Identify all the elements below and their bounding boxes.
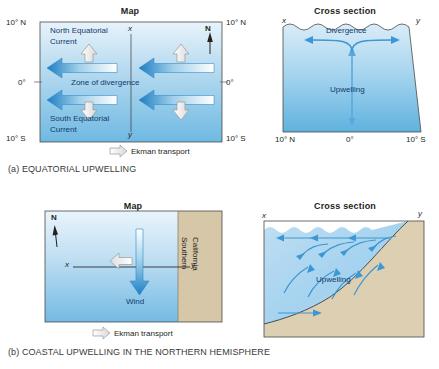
panel-a-cross-section: Cross section x y Divergence Upwelling 1… bbox=[250, 0, 439, 185]
southern-california-label-line1: Southern bbox=[180, 237, 189, 269]
south-equatorial-current-label-line1: South Equatorial bbox=[50, 114, 109, 123]
compass-label-north-b: N bbox=[51, 213, 57, 222]
panel-b-caption: (b) COASTAL UPWELLING IN THE NORTHERN HE… bbox=[8, 347, 270, 357]
north-equatorial-current-label-line1: North Equatorial bbox=[50, 26, 108, 35]
panel-a-upwelling-label: Upwelling bbox=[330, 85, 365, 94]
panel-b-cross-section: Cross section bbox=[250, 185, 439, 369]
south-equatorial-current-label-line2: Current bbox=[50, 125, 77, 134]
ekman-transport-legend-a: Ekman transport bbox=[131, 147, 190, 156]
southern-california-label-line2: California bbox=[191, 237, 200, 271]
panel-a-cross-axis-10s: 10° S bbox=[406, 135, 426, 144]
panel-b-upwelling-label: Upwelling bbox=[316, 275, 351, 284]
ekman-legend-icon bbox=[110, 145, 127, 157]
panel-a-cross-axis-10n: 10° N bbox=[275, 135, 295, 144]
panel-a-cross-axis-0: 0° bbox=[346, 135, 354, 144]
north-equatorial-current-label-line2: Current bbox=[50, 37, 77, 46]
panel-a-map: Map 10° N 0° 10° S 10° N 0° 10° S bbox=[0, 0, 250, 185]
panel-a-caption: (a) EQUATORIAL UPWELLING bbox=[8, 164, 136, 174]
panel-a-map-x-marker: x bbox=[128, 24, 132, 33]
panel-a-cross-x-marker: x bbox=[282, 16, 286, 25]
ekman-transport-legend-b: Ekman transport bbox=[114, 329, 173, 338]
wind-label: Wind bbox=[126, 297, 144, 306]
compass-label-north: N bbox=[205, 24, 211, 33]
ekman-legend-icon-b bbox=[93, 327, 110, 339]
panel-b-map-graphic bbox=[0, 185, 250, 369]
panel-b-cross-x-marker: x bbox=[262, 211, 266, 220]
divergence-label: Divergence bbox=[326, 26, 366, 35]
panel-b-cross-y-marker: y bbox=[418, 209, 422, 218]
panel-b-map-x-marker: x bbox=[65, 260, 69, 269]
panel-a-map-y-marker: y bbox=[128, 130, 132, 139]
zone-of-divergence-label: Zone of divergence bbox=[71, 78, 140, 87]
panel-b-map: Map bbox=[0, 185, 250, 369]
panel-a-cross-y-marker: y bbox=[416, 16, 420, 25]
panel-a-map-graphic bbox=[0, 0, 250, 185]
